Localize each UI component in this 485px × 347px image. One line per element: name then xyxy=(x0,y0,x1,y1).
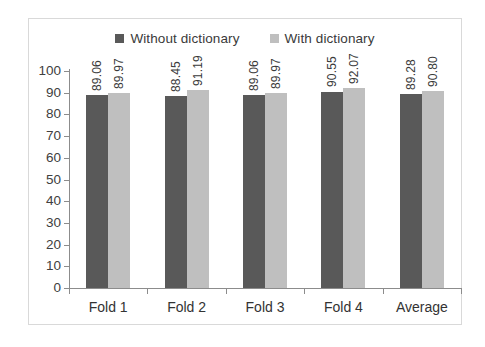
bar-column: 90.55 xyxy=(321,71,343,288)
bar-value-label: 92.07 xyxy=(348,53,360,84)
y-axis-tick-label: 70 xyxy=(27,129,61,143)
legend-entry-without-dictionary: Without dictionary xyxy=(115,31,239,46)
bar-column: 89.28 xyxy=(400,71,422,288)
x-axis-line xyxy=(69,288,461,289)
bar-column: 91.19 xyxy=(187,71,209,288)
bar-value-label: 90.55 xyxy=(326,56,338,87)
bar[interactable] xyxy=(86,95,108,288)
bar[interactable] xyxy=(187,90,209,288)
bar-pair: 88.4591.19 xyxy=(165,71,209,288)
y-axis-tick-label: 40 xyxy=(27,194,61,208)
bar[interactable] xyxy=(400,94,422,288)
legend-swatch-icon xyxy=(115,34,124,43)
bar[interactable] xyxy=(343,88,365,288)
bar[interactable] xyxy=(165,96,187,288)
bar[interactable] xyxy=(243,95,265,288)
bar-column: 88.45 xyxy=(165,71,187,288)
bar-pair: 90.5592.07 xyxy=(321,71,365,288)
bar-group: 90.5592.07 xyxy=(304,71,382,288)
bar[interactable] xyxy=(321,92,343,288)
bar-pair: 89.0689.97 xyxy=(243,71,287,288)
x-axis-category-label: Fold 4 xyxy=(304,299,382,315)
bar-value-label: 90.80 xyxy=(427,56,439,87)
x-axis-tick-mark xyxy=(147,288,148,294)
bar-value-label: 89.97 xyxy=(270,58,282,89)
y-axis-tick-label: 60 xyxy=(27,151,61,165)
y-axis-tick-label: 20 xyxy=(27,238,61,252)
legend-swatch-icon xyxy=(270,34,279,43)
x-axis-category-label: Fold 2 xyxy=(147,299,225,315)
bar-value-label: 89.28 xyxy=(405,59,417,90)
bar[interactable] xyxy=(265,93,287,288)
bar-group: 88.4591.19 xyxy=(147,71,225,288)
bar[interactable] xyxy=(422,91,444,288)
bar-group: 89.0689.97 xyxy=(69,71,147,288)
x-axis-tick-mark xyxy=(226,288,227,294)
bar-column: 89.97 xyxy=(265,71,287,288)
x-axis-category-label: Fold 3 xyxy=(226,299,304,315)
bar-value-label: 89.06 xyxy=(91,60,103,91)
bar-value-label: 89.06 xyxy=(248,60,260,91)
bar-pair: 89.0689.97 xyxy=(86,71,130,288)
bar-value-label: 91.19 xyxy=(192,55,204,86)
bar-value-label: 89.97 xyxy=(113,58,125,89)
x-axis-category-label: Average xyxy=(383,299,461,315)
bar[interactable] xyxy=(108,93,130,288)
legend-entry-with-dictionary: With dictionary xyxy=(270,31,375,46)
x-axis-category-label: Fold 1 xyxy=(69,299,147,315)
y-axis-tick-label: 100 xyxy=(27,64,61,78)
bar-column: 90.80 xyxy=(422,71,444,288)
x-axis-tick-mark xyxy=(69,288,70,294)
y-axis-tick-label: 90 xyxy=(27,86,61,100)
legend-label: With dictionary xyxy=(285,31,375,46)
y-axis-tick-label: 80 xyxy=(27,108,61,122)
bar-group: 89.0689.97 xyxy=(226,71,304,288)
y-axis-tick-label: 10 xyxy=(27,260,61,274)
chart-frame: Without dictionary With dictionary 01020… xyxy=(28,18,462,325)
plot-area: 89.0689.9788.4591.1989.0689.9790.5592.07… xyxy=(69,71,461,288)
bar-column: 89.06 xyxy=(243,71,265,288)
bar-column: 92.07 xyxy=(343,71,365,288)
y-axis-tick-label: 30 xyxy=(27,216,61,230)
x-axis-tick-mark xyxy=(461,288,462,294)
legend-label: Without dictionary xyxy=(130,31,239,46)
bar-pair: 89.2890.80 xyxy=(400,71,444,288)
x-axis-tick-mark xyxy=(304,288,305,294)
bar-column: 89.97 xyxy=(108,71,130,288)
y-axis-tick-label: 0 xyxy=(27,281,61,295)
bar-group: 89.2890.80 xyxy=(383,71,461,288)
bar-value-label: 88.45 xyxy=(170,61,182,92)
y-axis-tick-label: 50 xyxy=(27,173,61,187)
x-axis-category-labels: Fold 1Fold 2Fold 3Fold 4Average xyxy=(69,299,461,315)
x-axis-tick-mark xyxy=(383,288,384,294)
bar-column: 89.06 xyxy=(86,71,108,288)
chart-legend: Without dictionary With dictionary xyxy=(29,31,461,46)
